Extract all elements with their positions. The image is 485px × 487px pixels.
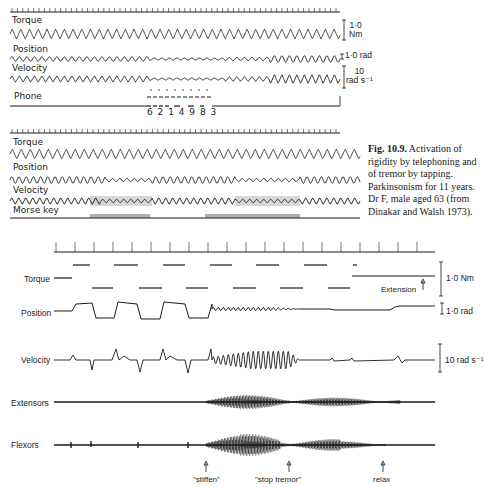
- trace-label-phone: Phone: [14, 92, 42, 101]
- panel-top-traces: [10, 8, 346, 106]
- position-trace: [10, 56, 340, 62]
- extensors-emg: [206, 395, 400, 409]
- event-label-stiffen: "stiffen": [193, 475, 220, 484]
- trace-label-position: Position: [21, 309, 51, 318]
- trace-label-position: Position: [13, 45, 48, 54]
- tapping-artifact: [235, 196, 300, 206]
- trace-label-position: Position: [13, 163, 48, 172]
- scale-torque-top: 1·0 Nm: [349, 21, 362, 39]
- figure-traces: [0, 0, 485, 487]
- trace-label-torque: Torque: [13, 138, 43, 147]
- morse-key-tapping: [205, 214, 300, 218]
- panel-middle-traces: [10, 129, 360, 218]
- position-trace: [54, 302, 435, 319]
- trace-label-velocity: Velocity: [13, 186, 48, 195]
- scale-position-bottom: 1·0 rad: [446, 307, 473, 316]
- phone-digits: 6 2 1 4 9 8 3: [147, 107, 217, 117]
- trace-label-velocity: Velocity: [21, 356, 50, 365]
- scale-unit: Nm: [349, 30, 362, 39]
- flexors-emg: [206, 434, 385, 456]
- torque-trace: [10, 29, 340, 39]
- panel-bottom-traces: [54, 242, 444, 472]
- trace-label-morse-key: Morse key: [13, 206, 59, 215]
- scale-unit: rad s⁻¹: [346, 76, 373, 85]
- trace-label-velocity: Velocity: [12, 64, 47, 73]
- event-label-relax: relax: [373, 475, 390, 484]
- torque-trace: [10, 150, 360, 159]
- scale-torque-bottom: 1·0 Nm: [446, 274, 474, 283]
- scale-velocity-bottom: 10 rad s⁻¹: [445, 356, 484, 365]
- trace-label-torque: Torque: [24, 275, 50, 284]
- caption-label: Fig. 10.9.: [368, 143, 407, 154]
- scale-position-top: 1·0 rad: [345, 51, 372, 60]
- velocity-trace: [10, 198, 360, 204]
- trace-label-extensors: Extensors: [11, 399, 49, 408]
- morse-key-tapping: [90, 214, 150, 218]
- velocity-trace: [54, 349, 435, 373]
- velocity-trace: [10, 75, 340, 83]
- scale-velocity-top: 10 rad s⁻¹: [346, 67, 373, 85]
- trace-label-torque: Torque: [12, 16, 42, 25]
- extension-annotation: Extension: [381, 285, 416, 294]
- figure-caption: Fig. 10.9. Activation of rigidity by tel…: [368, 143, 483, 219]
- caption-text: Activation of rigidity by telephoning an…: [368, 143, 477, 217]
- event-label-stop-tremor: "stop tremor": [255, 475, 301, 484]
- position-trace: [10, 177, 360, 183]
- trace-label-flexors: Flexors: [11, 441, 39, 450]
- tapping-artifact: [90, 196, 152, 206]
